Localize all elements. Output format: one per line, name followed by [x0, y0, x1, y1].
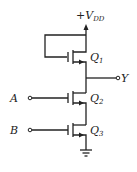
svg-text:Q2: Q2	[90, 92, 104, 106]
vdd-arrow-icon	[84, 24, 89, 35]
input-a: A	[9, 92, 68, 105]
transistor-q3: Q3	[68, 123, 104, 150]
vdd-subscript: DD	[92, 15, 105, 23]
svg-text:Q3: Q3	[90, 124, 104, 138]
q1-source-arrow-icon	[79, 60, 84, 65]
svg-text:+VDD: +VDD	[76, 9, 105, 23]
q2-source-arrow-icon	[79, 101, 84, 106]
ground-icon	[80, 150, 92, 156]
vdd-plus-v: +V	[76, 9, 94, 22]
input-b: B	[9, 124, 68, 137]
input-a-label: A	[9, 92, 18, 105]
vdd-label: +VDD	[76, 9, 105, 23]
nmos-nand-schematic: +VDD Q1 Y Q2 A	[0, 0, 137, 172]
output-label: Y	[121, 72, 130, 85]
transistor-q1: Q1	[68, 35, 104, 78]
input-b-label: B	[9, 124, 18, 137]
svg-text:Q1: Q1	[90, 51, 104, 65]
transistor-q2: Q2	[68, 78, 104, 125]
q1-gate-feedback-wire	[45, 35, 86, 57]
input-a-terminal	[28, 96, 32, 100]
output-terminal	[116, 76, 120, 80]
q3-source-arrow-icon	[79, 133, 84, 138]
output-y: Y	[86, 72, 130, 85]
input-b-terminal	[28, 128, 32, 132]
